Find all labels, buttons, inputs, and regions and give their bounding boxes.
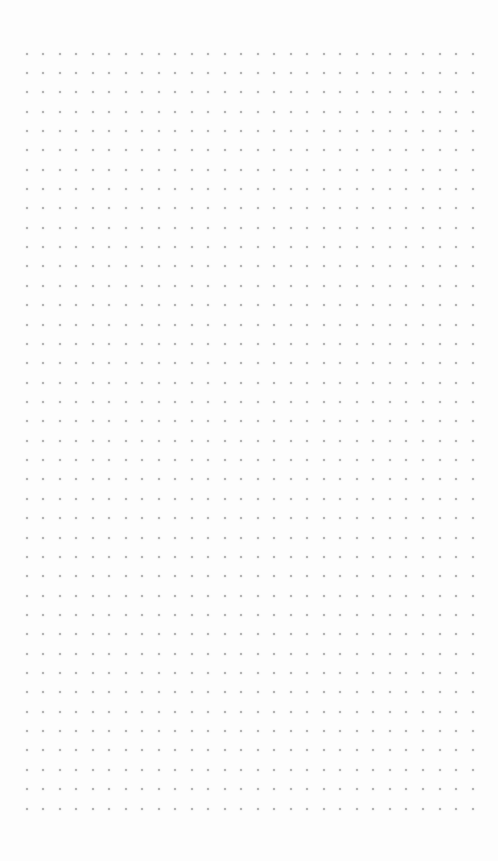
grid-dot [339, 130, 341, 132]
grid-dot [174, 749, 176, 751]
grid-dot [141, 265, 143, 267]
grid-dot [26, 420, 28, 422]
grid-dot [290, 362, 292, 364]
grid-dot [59, 575, 61, 577]
grid-dot [240, 788, 242, 790]
grid-dot [356, 788, 358, 790]
grid-dot [59, 343, 61, 345]
grid-dot [224, 285, 226, 287]
grid-dot [257, 227, 259, 229]
grid-dot [42, 169, 44, 171]
grid-dot [224, 130, 226, 132]
grid-dot [75, 691, 77, 693]
grid-dot [356, 749, 358, 751]
grid-dot [108, 149, 110, 151]
grid-dot [141, 614, 143, 616]
grid-dot [26, 653, 28, 655]
grid-dot [141, 498, 143, 500]
grid-dot [455, 517, 457, 519]
grid-dot [158, 440, 160, 442]
grid-dot [191, 769, 193, 771]
grid-dot [158, 169, 160, 171]
grid-dot [372, 537, 374, 539]
grid-dot [389, 672, 391, 674]
grid-dot [472, 111, 474, 113]
grid-dot [207, 769, 209, 771]
grid-dot [422, 711, 424, 713]
grid-dot [75, 72, 77, 74]
grid-dot [224, 343, 226, 345]
grid-dot [455, 265, 457, 267]
grid-dot [290, 595, 292, 597]
grid-dot [158, 614, 160, 616]
grid-dot [158, 72, 160, 74]
grid-dot [356, 440, 358, 442]
grid-dot [125, 691, 127, 693]
grid-dot [306, 711, 308, 713]
grid-dot [207, 614, 209, 616]
grid-dot [290, 227, 292, 229]
grid-dot [191, 304, 193, 306]
grid-dot [339, 53, 341, 55]
grid-dot [125, 711, 127, 713]
grid-dot [158, 575, 160, 577]
grid-dot [191, 382, 193, 384]
grid-dot [108, 72, 110, 74]
grid-dot [92, 285, 94, 287]
grid-dot [257, 246, 259, 248]
grid-dot [174, 730, 176, 732]
grid-dot [224, 265, 226, 267]
drawing-canvas[interactable] [0, 0, 498, 861]
grid-dot [141, 343, 143, 345]
grid-dot [141, 72, 143, 74]
grid-dot [339, 91, 341, 93]
grid-dot [141, 749, 143, 751]
grid-dot [59, 711, 61, 713]
grid-dot [455, 653, 457, 655]
grid-dot [191, 227, 193, 229]
grid-dot [224, 362, 226, 364]
grid-dot [240, 459, 242, 461]
grid-dot [356, 633, 358, 635]
grid-dot [191, 53, 193, 55]
grid-dot [372, 711, 374, 713]
grid-dot [323, 53, 325, 55]
grid-dot [455, 595, 457, 597]
grid-dot [174, 420, 176, 422]
grid-dot [108, 246, 110, 248]
grid-dot [141, 304, 143, 306]
grid-dot [405, 691, 407, 693]
grid-dot [240, 749, 242, 751]
grid-dot [323, 207, 325, 209]
grid-dot [108, 285, 110, 287]
grid-dot [207, 111, 209, 113]
grid-dot [207, 324, 209, 326]
grid-dot [75, 169, 77, 171]
grid-dot [422, 478, 424, 480]
grid-dot [92, 653, 94, 655]
grid-dot [257, 498, 259, 500]
grid-dot [472, 691, 474, 693]
grid-dot [339, 614, 341, 616]
grid-dot [108, 53, 110, 55]
grid-dot [191, 130, 193, 132]
grid-dot [455, 149, 457, 151]
grid-dot [141, 111, 143, 113]
grid-dot [174, 459, 176, 461]
grid-dot [26, 362, 28, 364]
grid-dot [224, 749, 226, 751]
grid-dot [455, 614, 457, 616]
grid-dot [257, 53, 259, 55]
grid-dot [92, 517, 94, 519]
grid-dot [273, 459, 275, 461]
grid-dot [290, 130, 292, 132]
grid-dot [273, 537, 275, 539]
grid-dot [141, 459, 143, 461]
grid-dot [455, 188, 457, 190]
grid-dot [422, 324, 424, 326]
grid-dot [323, 672, 325, 674]
grid-dot [339, 420, 341, 422]
grid-dot [257, 111, 259, 113]
grid-dot [59, 382, 61, 384]
grid-dot [108, 769, 110, 771]
